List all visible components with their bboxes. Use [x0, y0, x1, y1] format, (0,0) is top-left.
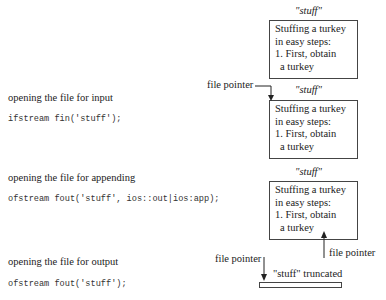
- output-pointer-arrow-icon: [261, 257, 267, 281]
- file-open-modes-diagram: "stuff" Stuffing a turkey in easy steps:…: [0, 0, 386, 300]
- arrows-overlay: [0, 0, 386, 300]
- append-pointer-arrow-icon: [321, 231, 327, 258]
- input-pointer-arrow-icon: [255, 86, 274, 101]
